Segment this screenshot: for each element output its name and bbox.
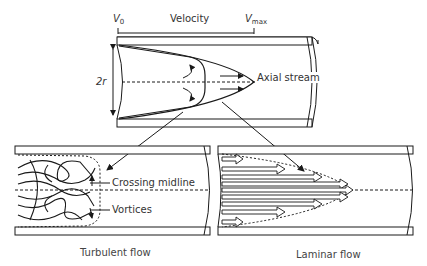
laminar-velocity-arrows <box>222 154 353 227</box>
velocity-scale-bracket <box>118 28 254 34</box>
laminar-flow-caption: Laminar flow <box>296 249 361 260</box>
turbulent-flow-caption: Turbulent flow <box>80 247 151 258</box>
vmax-symbol: V <box>245 13 252 24</box>
vortices-label: Vortices <box>112 204 152 215</box>
blood-flow-diagram <box>0 0 427 266</box>
velocity-title: Velocity <box>170 13 209 24</box>
crossing-midline-label: Crossing midline <box>112 177 195 188</box>
v0-subscript: 0 <box>120 18 124 26</box>
axial-stream-label: Axial stream <box>257 72 320 83</box>
v0-label: V0 <box>113 13 124 26</box>
turbulent-vessel <box>15 146 210 235</box>
vmax-label: Vmax <box>245 13 267 26</box>
diameter-label: 2r <box>96 76 106 87</box>
v0-symbol: V <box>113 13 120 24</box>
laminar-vessel <box>218 146 413 235</box>
vmax-subscript: max <box>252 18 267 26</box>
